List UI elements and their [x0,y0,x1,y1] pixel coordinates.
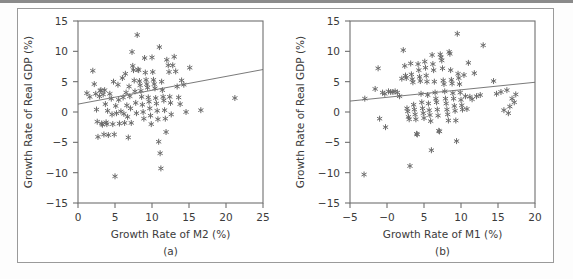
x-tick-label-a: 5 [99,212,131,223]
x-axis-title-a: Growth Rate of M2 (%) [78,228,263,240]
x-axis-title-b: Growth Rate of M1 (%) [350,228,535,240]
y-tick-label-a: −10 [36,168,68,179]
chart-panel-a: Growth Rate of Real GDP (%) Growth Rate … [8,8,280,263]
scatter-points-b [362,31,518,177]
x-tick-label-a: 25 [247,212,279,223]
y-tick-label-a: 15 [36,16,68,27]
x-tick-label-a: 0 [62,212,94,223]
y-axis-title-a: Growth Rate of Real GDP (%) [22,21,34,203]
y-tick-label-b: 5 [308,77,340,88]
chart-panel-b: Growth Rate of Real GDP (%) Growth Rate … [280,8,552,263]
x-tick-label-b: −5 [334,212,366,223]
x-tick-label-b: 15 [482,212,514,223]
y-tick-label-b: 0 [308,107,340,118]
x-tick-label-a: 10 [136,212,168,223]
panel-caption-b: (b) [350,245,535,257]
panel-caption-a: (a) [78,245,263,257]
y-tick-label-b: 10 [308,46,340,57]
x-tick-label-b: 5 [408,212,440,223]
x-tick-label-b: 20 [519,212,551,223]
x-tick-label-b: −0 [371,212,403,223]
y-tick-label-b: −15 [308,198,340,209]
top-rule-divider [0,0,573,3]
y-tick-label-a: −15 [36,198,68,209]
y-tick-label-a: −5 [36,137,68,148]
y-tick-label-b: 15 [308,16,340,27]
x-tick-label-a: 20 [210,212,242,223]
x-tick-label-a: 15 [173,212,205,223]
y-tick-label-b: −10 [308,168,340,179]
scatter-points-a [85,32,238,179]
figure-container: Growth Rate of Real GDP (%) Growth Rate … [0,0,573,279]
x-tick-label-b: 10 [445,212,477,223]
y-axis-title-b: Growth Rate of Real GDP (%) [294,21,306,203]
y-tick-label-b: −5 [308,137,340,148]
y-tick-label-a: 5 [36,77,68,88]
y-tick-label-a: 0 [36,107,68,118]
y-tick-label-a: 10 [36,46,68,57]
